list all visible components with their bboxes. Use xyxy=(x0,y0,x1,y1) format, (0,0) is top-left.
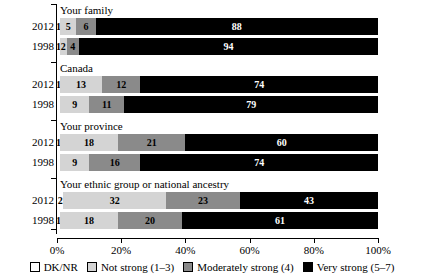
bar-segment-value: 18 xyxy=(84,138,94,148)
legend-swatch-icon xyxy=(30,262,40,272)
bar-row: 1131274 xyxy=(57,76,378,93)
bar-row: 1182061 xyxy=(57,212,378,229)
bar-row: 2322343 xyxy=(57,192,378,209)
bar-row: 12494 xyxy=(57,38,378,55)
bar-segment-notstrong: 5 xyxy=(60,18,76,35)
bar-segment-value: 79 xyxy=(246,100,256,110)
bar-segment-moderate: 11 xyxy=(89,96,124,113)
bar-segment-moderate: 4 xyxy=(67,38,80,55)
bar-segment-value: 74 xyxy=(254,80,264,90)
x-axis-tick-label: 60% xyxy=(230,244,270,256)
bar-segment-value: 6 xyxy=(83,22,88,32)
bar-segment-value: 16 xyxy=(110,158,120,168)
bar-segment-very: 74 xyxy=(140,154,378,171)
bar-row: 91179 xyxy=(57,96,378,113)
bar-segment-value: 2 xyxy=(61,42,66,52)
year-label: 1998 xyxy=(2,212,54,229)
bar-segment-very: 74 xyxy=(140,76,378,93)
bar-segment-value: 5 xyxy=(66,22,71,32)
legend-label: Moderately strong (4) xyxy=(197,261,294,273)
year-label: 2012 xyxy=(2,76,54,93)
legend-item[interactable]: Very strong (5–7) xyxy=(303,261,395,273)
bar-segment-value: 23 xyxy=(198,196,208,206)
bar-segment-value: 32 xyxy=(110,196,120,206)
x-axis-tick xyxy=(57,238,58,243)
x-axis-tick xyxy=(121,238,122,243)
year-label: 1998 xyxy=(2,154,54,171)
legend-swatch-icon xyxy=(87,262,97,272)
bar-segment-moderate: 6 xyxy=(76,18,95,35)
bar-segment-value: 74 xyxy=(254,158,264,168)
bar-segment-very: 79 xyxy=(124,96,378,113)
legend-label: Not strong (1–3) xyxy=(101,261,174,273)
bar-group-title: Canada xyxy=(60,62,93,74)
legend-swatch-icon xyxy=(183,262,193,272)
bar-segment-value: 11 xyxy=(102,100,111,110)
bar-segment-value: 88 xyxy=(232,22,242,32)
bar-segment-moderate: 20 xyxy=(118,212,182,229)
year-label: 2012 xyxy=(2,134,54,151)
bar-segment-value: 2 xyxy=(58,196,63,206)
bar-group-title: Your family xyxy=(60,4,113,16)
bar-segment-value: 94 xyxy=(224,42,234,52)
bar-segment-value: 60 xyxy=(277,138,287,148)
year-axis-labels: 20121998201219982012199820121998 xyxy=(0,4,54,234)
legend-label: DK/NR xyxy=(44,261,78,273)
bar-group: Your family1568812494 xyxy=(57,4,378,55)
x-axis-tick xyxy=(378,238,379,243)
year-label: 1998 xyxy=(2,38,54,55)
bar-row: 91674 xyxy=(57,154,378,171)
bar-segment-very: 61 xyxy=(182,212,378,229)
plot-area: Your family1568812494Canada113127491179Y… xyxy=(57,4,378,234)
bar-segment-value: 4 xyxy=(70,42,75,52)
x-axis-tick-label: 20% xyxy=(101,244,141,256)
bar-segment-notstrong: 18 xyxy=(60,212,118,229)
legend-label: Very strong (5–7) xyxy=(317,261,395,273)
bar-segment-value: 61 xyxy=(275,216,285,226)
legend-swatch-icon xyxy=(303,262,313,272)
legend-item[interactable]: Moderately strong (4) xyxy=(183,261,294,273)
bar-segment-notstrong: 9 xyxy=(60,154,89,171)
bar-segment-very: 94 xyxy=(79,38,378,55)
bar-group: Canada113127491179 xyxy=(57,62,378,113)
bar-segment-very: 60 xyxy=(185,134,378,151)
chart-legend: DK/NRNot strong (1–3)Moderately strong (… xyxy=(0,261,424,273)
year-label: 2012 xyxy=(2,192,54,209)
bar-segment-moderate: 12 xyxy=(102,76,141,93)
bar-segment-notstrong: 9 xyxy=(60,96,89,113)
x-axis-tick xyxy=(314,238,315,243)
bar-segment-value: 18 xyxy=(84,216,94,226)
bar-segment-value: 9 xyxy=(72,158,77,168)
legend-item[interactable]: Not strong (1–3) xyxy=(87,261,174,273)
bar-segment-value: 9 xyxy=(72,100,77,110)
stacked-bar-chart: 20121998201219982012199820121998 Your fa… xyxy=(0,0,424,280)
year-label: 2012 xyxy=(2,18,54,35)
year-label: 1998 xyxy=(2,96,54,113)
bar-segment-notstrong: 32 xyxy=(63,192,166,209)
x-axis-line xyxy=(57,238,379,239)
bar-segment-value: 13 xyxy=(76,80,86,90)
bar-group-title: Your ethnic group or national ancestry xyxy=(60,178,229,190)
bar-segment-moderate: 16 xyxy=(89,154,140,171)
bar-segment-notstrong: 13 xyxy=(60,76,102,93)
x-axis-tick-label: 80% xyxy=(294,244,334,256)
bar-row: 1182160 xyxy=(57,134,378,151)
bar-segment-value: 21 xyxy=(147,138,157,148)
bar-group: Your province118216091674 xyxy=(57,120,378,171)
bar-segment-moderate: 21 xyxy=(118,134,185,151)
x-axis-tick xyxy=(185,238,186,243)
x-axis-tick xyxy=(250,238,251,243)
bar-group: Your ethnic group or national ancestry23… xyxy=(57,178,378,229)
legend-item[interactable]: DK/NR xyxy=(30,261,78,273)
bar-segment-notstrong: 18 xyxy=(60,134,118,151)
bar-segment-value: 20 xyxy=(145,216,155,226)
x-axis-tick-label: 40% xyxy=(165,244,205,256)
x-axis-tick-label: 0% xyxy=(37,244,77,256)
bar-segment-very: 43 xyxy=(240,192,378,209)
bar-segment-moderate: 23 xyxy=(166,192,240,209)
bar-row: 15688 xyxy=(57,18,378,35)
bar-segment-very: 88 xyxy=(96,18,378,35)
bar-group-title: Your province xyxy=(60,120,123,132)
bar-segment-value: 43 xyxy=(304,196,314,206)
x-axis-tick-label: 100% xyxy=(358,244,398,256)
